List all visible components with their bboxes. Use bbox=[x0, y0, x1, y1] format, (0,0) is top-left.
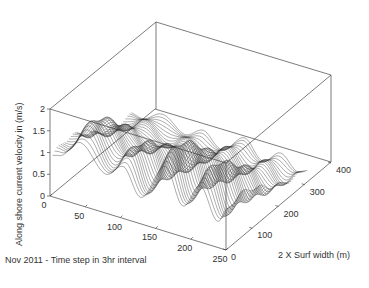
velocity-curve bbox=[129, 114, 305, 172]
velocity-curve bbox=[81, 117, 257, 203]
velocity-curves bbox=[53, 113, 308, 222]
x-tick-label: 250 bbox=[212, 254, 227, 264]
x-tick-label: 100 bbox=[107, 222, 122, 232]
3d-waterfall-chart: 00.511.52 050100150200250 0100200300400 … bbox=[0, 0, 369, 288]
y-tick-label: 0 bbox=[231, 252, 236, 262]
z-tick-label: 1.5 bbox=[32, 126, 45, 136]
z-tick-label: 1 bbox=[40, 148, 45, 158]
z-axis-title: Along shore current velocity in (m/s) bbox=[14, 102, 24, 246]
z-tick-label: 0.5 bbox=[32, 169, 45, 179]
z-tick-label: 2 bbox=[40, 104, 45, 114]
x-tick-label: 0 bbox=[41, 200, 46, 210]
z-axis-ticks: 00.511.52 bbox=[32, 104, 50, 201]
x-axis-title: Nov 2011 - Time step in 3hr interval bbox=[5, 255, 146, 265]
y-axis-title: 2 X Surf width (m) bbox=[278, 250, 350, 260]
y-tick-label: 200 bbox=[284, 209, 299, 219]
y-tick-label: 300 bbox=[310, 187, 325, 197]
x-tick-label: 50 bbox=[74, 211, 84, 221]
x-tick-label: 150 bbox=[142, 232, 157, 242]
x-tick-label: 200 bbox=[177, 243, 192, 253]
x-axis-ticks: 050100150200250 bbox=[41, 194, 228, 264]
velocity-curve bbox=[131, 113, 307, 173]
y-tick-label: 400 bbox=[336, 165, 351, 175]
y-tick-label: 100 bbox=[257, 230, 272, 240]
velocity-curve bbox=[75, 119, 251, 202]
